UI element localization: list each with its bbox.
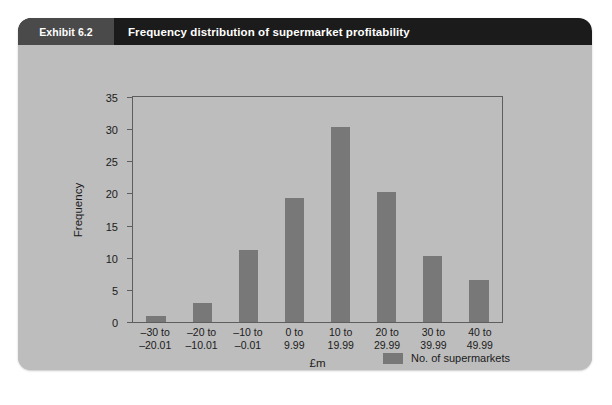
y-axis-tick: 25 <box>127 161 133 162</box>
exhibit-title: Frequency distribution of supermarket pr… <box>114 18 592 45</box>
x-axis-tick-label: 10 to19.99 <box>318 326 364 352</box>
bar-slot <box>179 97 225 322</box>
bar-series <box>133 97 502 322</box>
bar <box>285 198 304 322</box>
x-axis-tick-label: 20 to29.99 <box>364 326 410 352</box>
bar-slot <box>456 97 502 322</box>
x-axis-tick-label: 40 to49.99 <box>457 326 503 352</box>
bar <box>331 127 350 322</box>
x-axis-tick-label: 30 to39.99 <box>410 326 456 352</box>
y-axis-title-label: Frequency <box>72 182 84 236</box>
y-axis-tick: 5 <box>127 290 133 291</box>
y-axis-tick-label: 35 <box>106 92 118 104</box>
bar <box>469 280 488 322</box>
bar <box>146 316 165 322</box>
x-axis-tick-label: –10 to–0.01 <box>225 326 271 352</box>
x-axis-tick-labels: –30 to–20.01–20 to–10.01–10 to–0.010 to9… <box>132 326 503 352</box>
bar-slot <box>133 97 179 322</box>
y-axis-tick-label: 10 <box>106 253 118 265</box>
page-root: Exhibit 6.2 Frequency distribution of su… <box>0 0 612 405</box>
y-axis-title: Frequency <box>70 96 86 323</box>
bar <box>193 303 212 322</box>
bar-slot <box>410 97 456 322</box>
x-axis-tick-label: 0 to9.99 <box>271 326 317 352</box>
legend-label: No. of supermarkets <box>411 352 510 364</box>
exhibit-number-tag: Exhibit 6.2 <box>18 18 114 45</box>
bar-slot <box>271 97 317 322</box>
legend-swatch-icon <box>383 353 403 364</box>
y-axis-tick: 35 <box>127 97 133 98</box>
y-axis-tick-label: 25 <box>106 156 118 168</box>
bar <box>423 256 442 322</box>
bar-slot <box>225 97 271 322</box>
y-axis-tick: 0 <box>127 322 133 323</box>
chart-legend: No. of supermarkets <box>383 352 510 364</box>
y-axis-tick: 15 <box>127 226 133 227</box>
chart-body: Frequency 05101520253035 –30 to–20.01–20… <box>18 45 592 370</box>
bar-slot <box>364 97 410 322</box>
y-axis-tick: 20 <box>127 193 133 194</box>
exhibit-card: Exhibit 6.2 Frequency distribution of su… <box>18 18 592 370</box>
x-axis-tick-label: –20 to–10.01 <box>178 326 224 352</box>
y-axis-tick-label: 0 <box>112 317 118 329</box>
bar <box>377 192 396 322</box>
y-axis-tick-label: 30 <box>106 124 118 136</box>
exhibit-title-bar: Exhibit 6.2 Frequency distribution of su… <box>18 18 592 45</box>
y-axis-tick-label: 20 <box>106 188 118 200</box>
y-axis-tick-label: 5 <box>112 285 118 297</box>
bar-slot <box>318 97 364 322</box>
y-axis-tick-label: 15 <box>106 221 118 233</box>
bar <box>239 250 258 322</box>
plot-area: 05101520253035 <box>132 96 503 323</box>
y-axis-tick: 30 <box>127 129 133 130</box>
x-axis-tick-label: –30 to–20.01 <box>132 326 178 352</box>
y-axis-tick: 10 <box>127 258 133 259</box>
